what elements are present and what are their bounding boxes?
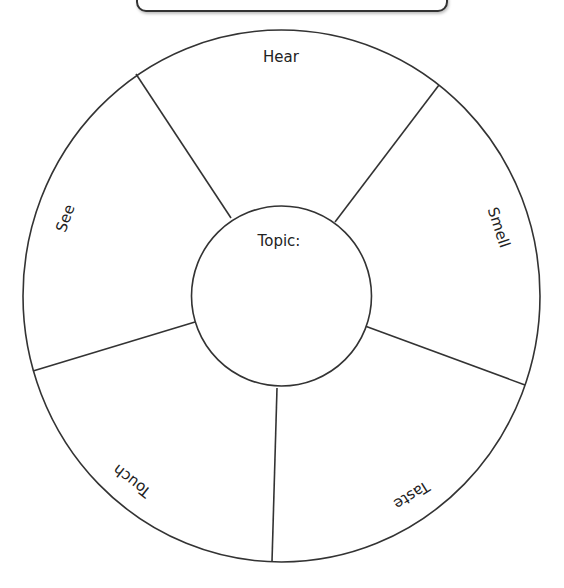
section-label-see: See: [52, 202, 78, 234]
divider-smell-taste: [365, 326, 525, 385]
topic-label: Topic:: [257, 232, 301, 250]
divider-hear-see: [136, 74, 231, 218]
section-label-smell: Smell: [484, 205, 514, 250]
section-label-taste: Taste: [390, 477, 433, 513]
divider-taste-touch: [272, 388, 277, 562]
divider-touch-see: [33, 322, 195, 371]
section-label-hear: Hear: [263, 48, 300, 66]
five-senses-wheel: Topic: Hear Smell Taste Touch See: [0, 0, 564, 588]
divider-hear-smell: [335, 85, 439, 222]
section-label-touch: Touch: [109, 461, 155, 502]
